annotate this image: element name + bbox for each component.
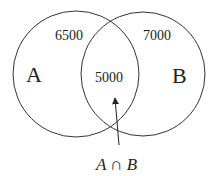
venn-canvas: 6500 7000 5000 A B A ∩ B [0, 0, 214, 176]
a-only-value: 6500 [55, 28, 83, 43]
b-only-value: 7000 [143, 28, 171, 43]
set-a-label: A [26, 62, 42, 87]
venn-diagram: 6500 7000 5000 A B A ∩ B [0, 0, 214, 176]
intersection-value: 5000 [95, 70, 123, 85]
intersection-label: A ∩ B [95, 155, 138, 174]
set-b-label: B [172, 63, 187, 88]
intersection-arrow [115, 98, 119, 145]
